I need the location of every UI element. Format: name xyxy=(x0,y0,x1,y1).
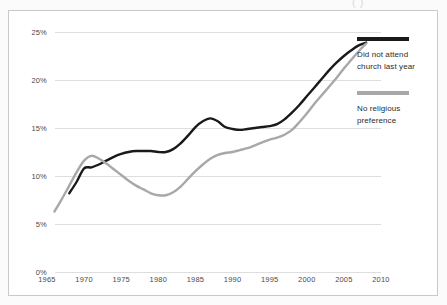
x-tick-label: 1970 xyxy=(75,275,93,284)
y-tick-label: 25% xyxy=(17,28,47,37)
x-tick-label: 2005 xyxy=(335,275,353,284)
x-tick-label: 1965 xyxy=(38,275,56,284)
x-tick-label: 1980 xyxy=(150,275,168,284)
x-tick-label: 1975 xyxy=(112,275,130,284)
x-tick-label: 2010 xyxy=(372,275,390,284)
y-axis-labels: 0%5%10%15%20%25% xyxy=(17,32,47,272)
plot-area xyxy=(47,32,381,272)
x-tick-label: 1990 xyxy=(224,275,242,284)
x-tick-label: 1995 xyxy=(261,275,279,284)
legend-label: Did not attend church last year xyxy=(357,49,447,73)
y-tick-label: 10% xyxy=(17,172,47,181)
x-tick-label: 1985 xyxy=(187,275,205,284)
chart-legend: Did not attend church last yearNo religi… xyxy=(357,37,447,145)
chart-screenshot: ( ) 0%5%10%15%20%25% 1965197019751980198… xyxy=(0,0,447,305)
legend-entry: No religious preference xyxy=(357,91,447,127)
y-tick-label: 15% xyxy=(17,124,47,133)
gridline xyxy=(55,272,381,273)
series-line xyxy=(54,44,366,212)
legend-swatch xyxy=(357,37,409,41)
y-tick-label: 20% xyxy=(17,76,47,85)
legend-entry: Did not attend church last year xyxy=(357,37,447,73)
legend-swatch xyxy=(357,91,409,95)
chart-frame: 0%5%10%15%20%25% 19651970197519801985199… xyxy=(8,10,438,296)
x-tick-label: 2000 xyxy=(298,275,316,284)
y-tick-label: 5% xyxy=(17,220,47,229)
x-axis-labels: 1965197019751980198519901995200020052010 xyxy=(47,275,387,289)
clipped-header-text: ( ) xyxy=(352,0,444,8)
legend-label: No religious preference xyxy=(357,103,447,127)
series-lines xyxy=(47,32,381,272)
